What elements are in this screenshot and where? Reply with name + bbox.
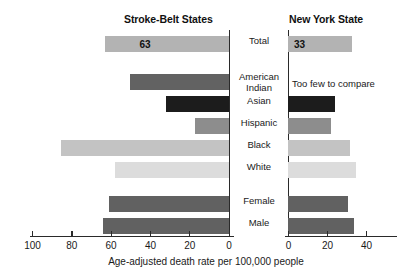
bar-value-right-total: 33 [294, 39, 305, 50]
panel-title-stroke-belt: Stroke-Belt States [124, 13, 213, 25]
bar-right-male [288, 218, 354, 234]
category-label-asian: Asian [231, 96, 287, 107]
axis-tick-right-0 [288, 231, 289, 236]
axis-tick-label-left-40: 40 [145, 240, 156, 251]
bar-left-male [103, 218, 229, 234]
category-label-american-indian: American Indian [231, 72, 287, 93]
axis-tick-left-80 [71, 231, 72, 236]
bar-right-female [288, 196, 348, 212]
axis-line-left [30, 236, 234, 237]
bar-right-hispanic [288, 118, 331, 134]
axis-tick-right-20 [327, 231, 328, 236]
category-label-total: Total [231, 36, 287, 47]
bar-left-total [105, 36, 229, 52]
axis-tick-label-left-80: 80 [66, 240, 77, 251]
chart-root: Stroke-Belt States New York State 63 33 … [0, 0, 412, 278]
bar-left-hispanic [195, 118, 228, 134]
panel-title-new-york: New York State [289, 13, 363, 25]
axis-tick-left-60 [111, 231, 112, 236]
axis-tick-label-left-20: 20 [184, 240, 195, 251]
bar-left-white [115, 162, 229, 178]
category-label-black: Black [231, 140, 287, 151]
bar-left-asian [166, 96, 229, 112]
axis-line-right [285, 236, 397, 237]
bar-right-black [288, 140, 350, 156]
axis-tick-label-right-0: 0 [286, 240, 292, 251]
category-label-white: White [231, 162, 287, 173]
panel-new-york: 33 Too few to compare [288, 30, 388, 235]
bar-left-american-indian [130, 74, 228, 90]
axis-tick-left-100 [32, 231, 33, 236]
note-too-few-to-compare: Too few to compare [292, 78, 375, 89]
axis-tick-label-left-0: 0 [226, 240, 232, 251]
axis-tick-label-left-100: 100 [24, 240, 41, 251]
bar-value-left-total: 63 [139, 39, 150, 50]
axis-tick-label-right-40: 40 [361, 240, 372, 251]
axis-tick-right-40 [366, 231, 367, 236]
axis-tick-left-40 [150, 231, 151, 236]
axis-tick-label-left-60: 60 [106, 240, 117, 251]
panel-stroke-belt: 63 [30, 30, 230, 235]
bar-left-black [61, 140, 228, 156]
category-label-male: Male [231, 218, 287, 229]
bar-right-white [288, 162, 356, 178]
bar-left-female [109, 196, 229, 212]
bar-right-asian [288, 96, 335, 112]
zero-axis-left [229, 30, 230, 235]
axis-tick-label-right-20: 20 [322, 240, 333, 251]
category-label-female: Female [231, 196, 287, 207]
axis-tick-left-20 [189, 231, 190, 236]
category-label-hispanic: Hispanic [231, 118, 287, 129]
x-axis-caption: Age-adjusted death rate per 100,000 peop… [0, 256, 412, 267]
axis-tick-left-0 [229, 231, 230, 236]
